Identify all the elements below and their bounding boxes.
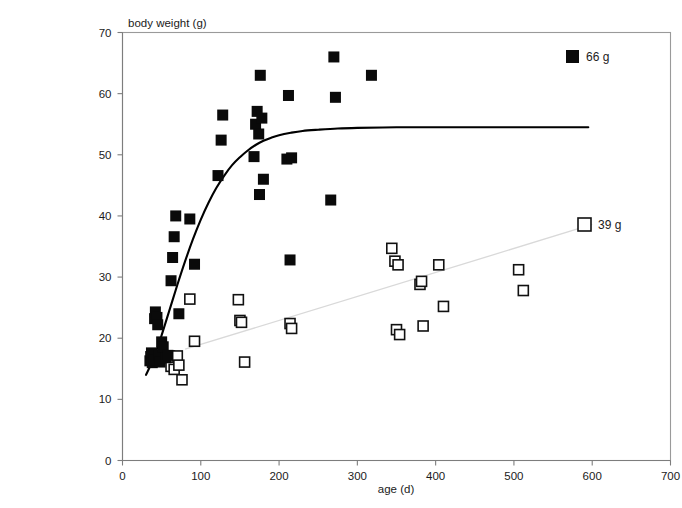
data-point-open-square [438, 301, 448, 311]
x-tick-label: 100 [191, 470, 210, 482]
data-point-filled-square [189, 259, 200, 270]
data-point-filled-square [325, 195, 336, 206]
data-point-filled-square [173, 308, 184, 319]
data-point-filled-square [256, 113, 267, 124]
data-point-open-square [393, 260, 403, 270]
data-point-filled-square [328, 51, 339, 62]
data-point-open-square [240, 357, 250, 367]
data-point-open-square [236, 317, 246, 327]
data-point-open-square [190, 336, 200, 346]
y-tick-label: 30 [99, 271, 112, 283]
data-point-open-square [514, 265, 524, 275]
data-point-open-square [233, 295, 243, 305]
y-tick-label: 60 [99, 88, 112, 100]
y-tick-label: 50 [99, 149, 112, 161]
y-tick-label: 40 [99, 210, 112, 222]
legend-marker-open-square [578, 218, 591, 231]
data-point-filled-square [249, 151, 260, 162]
data-point-filled-square [152, 319, 163, 330]
x-tick-label: 700 [661, 470, 680, 482]
data-point-filled-square [213, 170, 224, 181]
y-tick-label: 20 [99, 332, 112, 344]
x-axis-title: age (d) [378, 483, 415, 495]
x-tick-label: 200 [269, 470, 288, 482]
x-tick-label: 300 [348, 470, 367, 482]
data-point-filled-square [283, 90, 294, 101]
data-point-filled-square [169, 231, 180, 242]
chart-canvas: 0100200300400500600700 010203040506070 a… [0, 0, 682, 508]
data-point-open-square [395, 330, 405, 340]
legend-marker-filled-square [566, 50, 579, 63]
data-point-open-square [518, 286, 528, 296]
x-tick-label: 600 [583, 470, 602, 482]
data-point-open-square [434, 260, 444, 270]
data-point-open-square [287, 323, 297, 333]
data-point-filled-square [255, 70, 266, 81]
data-point-filled-square [366, 70, 377, 81]
data-point-filled-square [217, 110, 228, 121]
data-point-filled-square [285, 254, 296, 265]
data-point-open-square [417, 276, 427, 286]
data-point-filled-square [253, 128, 264, 139]
data-point-filled-square [254, 189, 265, 200]
data-point-filled-square [330, 92, 341, 103]
x-tick-label: 400 [426, 470, 445, 482]
data-point-filled-square [258, 174, 269, 185]
data-point-open-square [177, 375, 187, 385]
data-point-open-square [418, 321, 428, 331]
data-point-filled-square [216, 135, 227, 146]
y-axis-title: body weight (g) [128, 17, 207, 29]
data-point-open-square [387, 243, 397, 253]
x-tick-label: 500 [504, 470, 523, 482]
x-tick-label: 0 [119, 470, 125, 482]
data-point-filled-square [166, 275, 177, 286]
data-point-filled-square [286, 152, 297, 163]
data-point-open-square [174, 360, 184, 370]
y-tick-label: 70 [99, 27, 112, 39]
legend-label-39g: 39 g [598, 218, 621, 232]
legend-label-66g: 66 g [586, 50, 609, 64]
background [0, 0, 682, 508]
data-point-filled-square [162, 350, 173, 361]
y-tick-label: 0 [105, 455, 111, 467]
data-point-filled-square [184, 213, 195, 224]
data-point-open-square [185, 294, 195, 304]
y-tick-label: 10 [99, 393, 112, 405]
scatter-plot: 0100200300400500600700 010203040506070 a… [0, 0, 682, 508]
data-point-filled-square [167, 252, 178, 263]
data-point-filled-square [170, 210, 181, 221]
